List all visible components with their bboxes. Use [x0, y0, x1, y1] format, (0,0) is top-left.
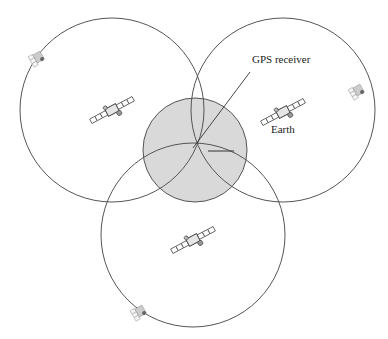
satellite-icon — [169, 223, 219, 259]
gps-diagram — [0, 0, 388, 339]
satellite-faded-icon — [130, 304, 147, 321]
earth-label: Earth — [271, 123, 295, 135]
satellite-icon — [88, 93, 138, 129]
satellite-faded-icon — [348, 83, 365, 100]
satellite-faded-icon — [28, 50, 45, 67]
gps-receiver-label: GPS receiver — [252, 53, 310, 65]
